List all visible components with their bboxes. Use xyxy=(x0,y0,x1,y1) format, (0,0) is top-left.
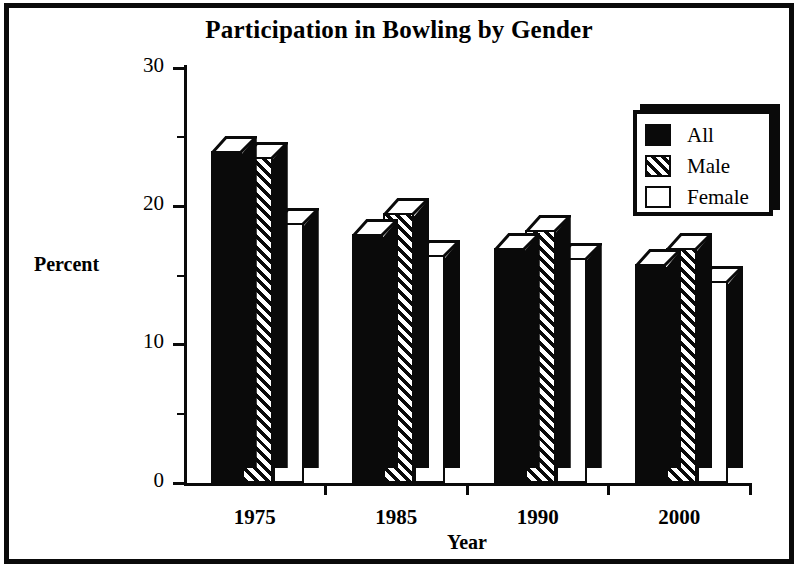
y-tick-minor xyxy=(177,275,185,277)
bar-side-face xyxy=(381,219,398,468)
x-tick-label: 1975 xyxy=(195,505,315,530)
bar-side-face xyxy=(695,233,712,468)
bar-all-1985 xyxy=(352,219,398,483)
bar-side-face xyxy=(523,233,540,468)
bar-side-face xyxy=(726,266,743,468)
x-tick-label: 2000 xyxy=(619,505,739,530)
bar-all-1975 xyxy=(211,136,257,483)
chart-legend: AllMaleFemale xyxy=(633,110,773,216)
legend-swatch-male xyxy=(645,155,671,177)
bar-front-face xyxy=(494,248,525,483)
y-tick-minor xyxy=(177,413,185,415)
bar-side-face xyxy=(412,198,429,468)
legend-swatch-female xyxy=(645,186,671,208)
x-tick xyxy=(324,483,327,495)
legend-label: Female xyxy=(687,187,749,208)
x-tick xyxy=(749,483,752,495)
bar-all-1990 xyxy=(494,233,540,483)
y-tick-label: 0 xyxy=(104,470,164,491)
bar-front-face xyxy=(211,151,242,483)
bar-all-2000 xyxy=(635,249,681,483)
y-tick-label: 10 xyxy=(104,331,164,352)
x-tick-label: 1990 xyxy=(478,505,598,530)
legend-label: Male xyxy=(687,156,730,177)
y-tick-major: 20 xyxy=(173,205,185,208)
bar-side-face xyxy=(271,142,288,468)
legend-item-male[interactable]: Male xyxy=(645,151,730,181)
y-tick-major: 10 xyxy=(173,343,185,346)
chart-title: Participation in Bowling by Gender xyxy=(0,16,798,44)
y-axis-title: Percent xyxy=(34,253,99,276)
chart-figure: Participation in Bowling by Gender Perce… xyxy=(0,0,798,571)
y-tick-minor xyxy=(177,136,185,138)
y-tick-label: 20 xyxy=(104,193,164,214)
bar-side-face xyxy=(443,240,460,468)
bar-front-face xyxy=(635,264,666,483)
x-tick xyxy=(466,483,469,495)
bar-side-face xyxy=(240,136,257,468)
x-tick-label: 1985 xyxy=(336,505,456,530)
legend-swatch-all xyxy=(645,124,671,146)
x-tick xyxy=(607,483,610,495)
legend-item-female[interactable]: Female xyxy=(645,182,749,212)
y-tick-label: 30 xyxy=(104,55,164,76)
legend-item-all[interactable]: All xyxy=(645,120,714,150)
bar-side-face xyxy=(554,215,571,468)
bar-front-face xyxy=(352,234,383,483)
x-axis-title: Year xyxy=(184,531,750,554)
bar-side-face xyxy=(664,249,681,468)
y-tick-major: 30 xyxy=(173,67,185,70)
y-tick-major: 0 xyxy=(173,482,185,485)
bar-side-face xyxy=(585,243,602,468)
bar-side-face xyxy=(302,208,319,468)
legend-label: All xyxy=(687,125,714,146)
